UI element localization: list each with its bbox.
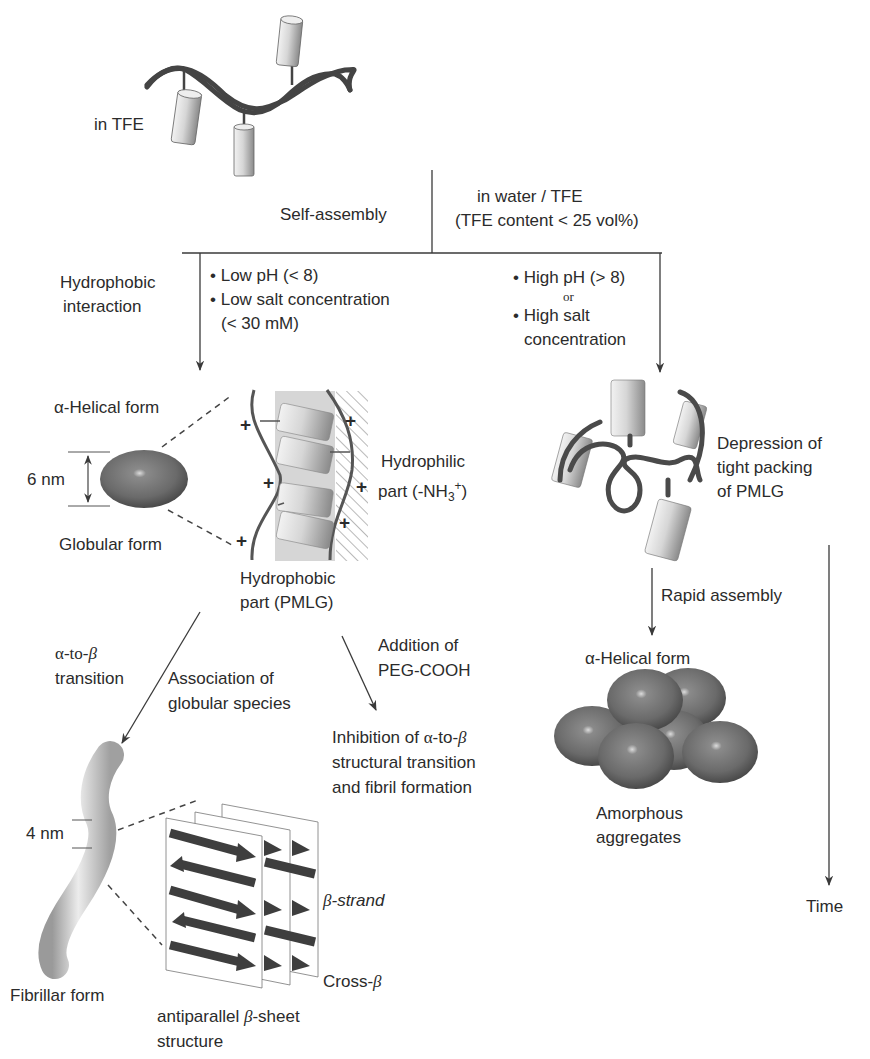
hydrophilic-label-line1: Hydrophilic (381, 451, 465, 472)
antiparallel-sheet-line2: structure (157, 1031, 223, 1052)
inhibition-line2: structural transition (332, 752, 476, 773)
tfe-polymer-chain-icon (147, 15, 354, 176)
globular-sphere-icon (100, 450, 188, 508)
left-condition-3: (< 30 mM) (221, 313, 299, 334)
hydrophobic-interaction-line1: Hydrophobic (60, 272, 155, 293)
amorphous-aggregates-icon (554, 668, 758, 789)
hydrophilic-label-line2: part (-NH3+) (378, 476, 467, 508)
diagram-artwork (0, 0, 870, 1059)
beta-strand-label: β-strand (323, 890, 384, 911)
alpha-to-beta-line2: transition (55, 668, 124, 689)
antiparallel-sheet-line1: antiparallel β-sheet (157, 1006, 300, 1027)
inhibition-line3: and fibril formation (332, 777, 472, 798)
four-nm-label: 4 nm (26, 823, 64, 844)
charge-plus-3: + (236, 530, 247, 551)
beta-sheet-icon (166, 804, 318, 988)
hydrophobic-part-line2: part (PMLG) (240, 592, 334, 613)
charge-plus-5: + (356, 476, 367, 497)
cross-beta-label: Cross-β (323, 971, 382, 992)
addition-line2: PEG-COOH (378, 660, 471, 681)
disordered-chain-icon (551, 380, 707, 561)
amorphous-line1: Amorphous (596, 803, 683, 824)
alpha-to-beta-line1: α-to-β (55, 643, 97, 664)
six-nm-label: 6 nm (27, 469, 65, 490)
rapid-assembly-label: Rapid assembly (661, 585, 782, 606)
right-condition-3: concentration (524, 329, 626, 350)
association-line2: globular species (168, 693, 291, 714)
left-condition-2: • Low salt concentration (210, 289, 390, 310)
depression-line1: Depression of (717, 433, 822, 454)
left-condition-1: • Low pH (< 8) (210, 265, 318, 286)
association-line1: Association of (168, 668, 274, 689)
right-condition-or: or (563, 290, 574, 304)
hydrophobic-interaction-line2: interaction (63, 296, 141, 317)
hydrophobic-part-line1: Hydrophobic (240, 568, 335, 589)
globular-form-label: Globular form (59, 534, 162, 555)
water-tfe-label: in water / TFE (477, 186, 583, 207)
tfe-content-label: (TFE content < 25 vol%) (455, 210, 639, 231)
right-alpha-helical-label: α-Helical form (585, 648, 690, 669)
alpha-helical-form-label: α-Helical form (54, 397, 159, 418)
amorphous-line2: aggregates (596, 827, 681, 848)
inhibition-line1: Inhibition of α-to-β (332, 727, 467, 748)
self-assembly-label: Self-assembly (280, 204, 387, 225)
addition-line1: Addition of (378, 635, 458, 656)
charge-plus-6: + (339, 512, 350, 533)
time-label: Time (806, 896, 843, 917)
depression-line3: of PMLG (717, 481, 784, 502)
charge-plus-1: + (240, 414, 251, 435)
depression-line2: tight packing (717, 457, 812, 478)
charge-plus-4: + (345, 410, 356, 431)
right-condition-2: • High salt (513, 305, 590, 326)
in-tfe-label: in TFE (94, 114, 144, 135)
fibril-icon (52, 755, 110, 965)
fibrillar-form-label: Fibrillar form (10, 985, 104, 1006)
charge-plus-2: + (263, 472, 274, 493)
right-condition-1: • High pH (> 8) (513, 267, 625, 288)
